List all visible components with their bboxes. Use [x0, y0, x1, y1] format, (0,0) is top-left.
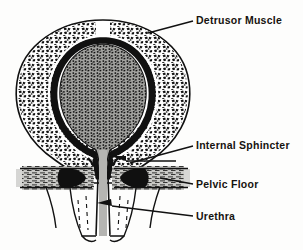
label-internal-sphincter: Internal Sphincter	[196, 140, 290, 151]
label-urethra: Urethra	[196, 211, 235, 222]
anatomy-figure: Detrusor Muscle Internal Sphincter Pelvi…	[0, 0, 303, 250]
label-detrusor-muscle: Detrusor Muscle	[196, 15, 282, 26]
leader-detrusor	[148, 21, 193, 33]
label-pelvic-floor: Pelvic Floor	[196, 179, 259, 190]
bladder-diagram-svg	[0, 0, 303, 250]
